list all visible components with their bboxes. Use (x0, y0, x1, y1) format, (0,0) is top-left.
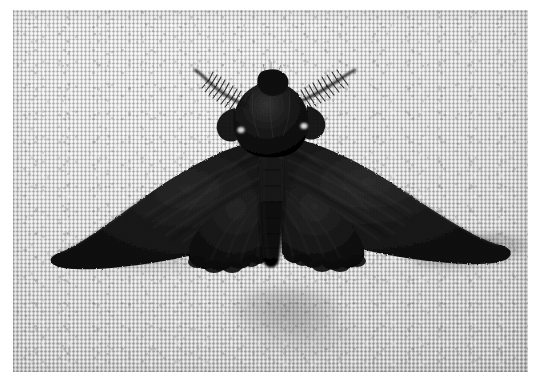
photograph (13, 10, 528, 372)
film-grain (13, 10, 528, 372)
photo-frame (0, 0, 544, 382)
